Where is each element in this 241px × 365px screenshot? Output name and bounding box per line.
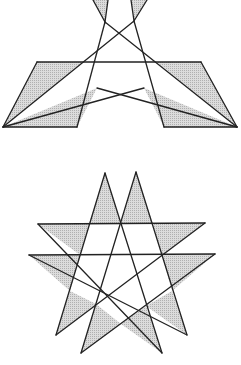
star-a-top-tip — [89, 173, 121, 224]
star-b-top-tip — [121, 172, 153, 224]
top-figure — [3, 0, 237, 127]
bottom-figure — [29, 172, 215, 353]
geometric-figure — [0, 0, 241, 365]
